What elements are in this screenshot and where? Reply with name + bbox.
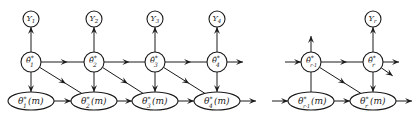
label-sub: 1 xyxy=(23,102,27,109)
edge-th2-to-m3 xyxy=(102,67,143,93)
label-sub: 1 xyxy=(30,61,34,68)
arrowhead-icon xyxy=(120,77,128,83)
edge-th4-to-m4 xyxy=(214,72,220,92)
label-sub: r xyxy=(374,18,377,24)
edge-line xyxy=(163,67,204,93)
node-m3: θ*3(m) xyxy=(132,92,178,110)
node-thr: θ̂*r xyxy=(363,52,383,72)
label-arg: (m) xyxy=(91,96,107,106)
arrowhead-icon xyxy=(58,77,66,83)
arrowhead-icon xyxy=(338,77,346,83)
node-th3: θ̂*3 xyxy=(145,52,165,72)
node-mr: θ*r(m) xyxy=(350,92,396,110)
node-Y3: Y3 xyxy=(147,11,163,27)
label-sup: * xyxy=(31,54,34,61)
edge-th1-to-m1 xyxy=(28,72,34,92)
label-arg: (m) xyxy=(28,96,44,106)
edge-th2-to-th3 xyxy=(104,59,145,65)
label-sub: 4 xyxy=(215,61,220,68)
label-arg: (m) xyxy=(370,96,386,106)
edge-line xyxy=(102,67,143,93)
node-m2: θ*2(m) xyxy=(71,92,117,110)
label-sup: * xyxy=(311,54,314,61)
edge-line xyxy=(40,67,82,93)
node-th2: θ̂*2 xyxy=(84,52,104,72)
edge-thr1-to-up xyxy=(308,36,314,52)
edge-th4-to-Y4 xyxy=(214,27,220,52)
label-sub: 3 xyxy=(147,102,151,109)
edge-left-to-thr1 xyxy=(285,59,301,65)
node-Y2: Y2 xyxy=(86,11,102,27)
edge-m2-to-m3 xyxy=(117,98,132,104)
edge-thr-to-right xyxy=(383,59,399,65)
edge-thr-to-lower-right xyxy=(381,68,392,76)
label-sub: 2 xyxy=(85,102,90,109)
label-sup: * xyxy=(94,54,97,61)
edge-m4-to-right xyxy=(240,98,256,104)
edge-th3-to-m4 xyxy=(163,67,204,93)
label-arg: (m) xyxy=(152,96,168,106)
node-mr1: θ*r-1(m) xyxy=(288,92,334,110)
label-sup: * xyxy=(86,95,89,102)
edge-th2-to-Y2 xyxy=(91,27,97,52)
node-Y1: Y1 xyxy=(23,11,39,27)
edge-th3-to-Y3 xyxy=(152,27,158,52)
label-sup: * xyxy=(155,54,158,61)
label-sub: r-1 xyxy=(303,103,310,109)
label-sub: 1 xyxy=(32,18,36,24)
edge-thr1-to-mr xyxy=(319,67,360,93)
arrowhead-icon xyxy=(182,77,190,83)
label-sup: * xyxy=(209,95,212,102)
edge-th4-to-right xyxy=(227,59,243,65)
node-Y4: Y4 xyxy=(209,11,225,27)
label-sup: * xyxy=(373,54,376,61)
dependency-diagram: Y1Y2Y3Y4Yrθ̂*1θ̂*2θ̂*3θ̂*4θ̂*r-1θ̂*rθ*1(… xyxy=(0,0,420,121)
node-thr1: θ̂*r-1 xyxy=(301,52,321,72)
edge-th1-to-th2 xyxy=(41,59,84,65)
edge-left-to-mr1 xyxy=(272,98,288,104)
label-sup: * xyxy=(23,95,26,102)
edge-th1-to-Y1 xyxy=(28,27,34,52)
node-m4: θ*4(m) xyxy=(194,92,240,110)
edge-line xyxy=(319,67,360,93)
edge-mr1-to-mr xyxy=(334,98,350,104)
node-m1: θ*1(m) xyxy=(8,92,54,110)
label-sup: * xyxy=(365,95,368,102)
node-th4: θ̂*4 xyxy=(207,52,227,72)
edge-th3-to-m3 xyxy=(152,72,158,92)
label-sub: 3 xyxy=(154,61,158,68)
edge-th3-to-th4 xyxy=(165,59,207,65)
label-sub: 4 xyxy=(208,102,213,109)
edge-th1-to-m2 xyxy=(40,67,82,93)
edge-m1-to-m2 xyxy=(54,98,71,104)
edge-thr-to-mr xyxy=(370,72,376,92)
label-sup: * xyxy=(217,54,220,61)
edge-thr-to-Yr xyxy=(370,27,376,52)
label-sub: 2 xyxy=(94,18,99,24)
label-sub: 3 xyxy=(156,18,160,24)
edge-th2-to-m2 xyxy=(91,72,97,92)
edge-mr-to-right xyxy=(396,98,412,104)
nodes-layer: Y1Y2Y3Y4Yrθ̂*1θ̂*2θ̂*3θ̂*4θ̂*r-1θ̂*rθ*1(… xyxy=(8,11,396,110)
label-sub: 2 xyxy=(92,61,97,68)
label-sup: * xyxy=(303,95,306,102)
node-th1: θ̂*1 xyxy=(21,52,41,72)
label-sub: 4 xyxy=(217,18,222,24)
label-arg: (m) xyxy=(214,96,230,106)
label-sub: r-1 xyxy=(310,62,317,68)
node-Yr: Yr xyxy=(365,11,381,27)
edge-thr1-to-thr xyxy=(321,59,363,65)
label-sup: * xyxy=(147,95,150,102)
label-arg: (m) xyxy=(311,96,327,106)
arrowhead-icon xyxy=(385,69,392,75)
edge-m3-to-m4 xyxy=(178,98,194,104)
